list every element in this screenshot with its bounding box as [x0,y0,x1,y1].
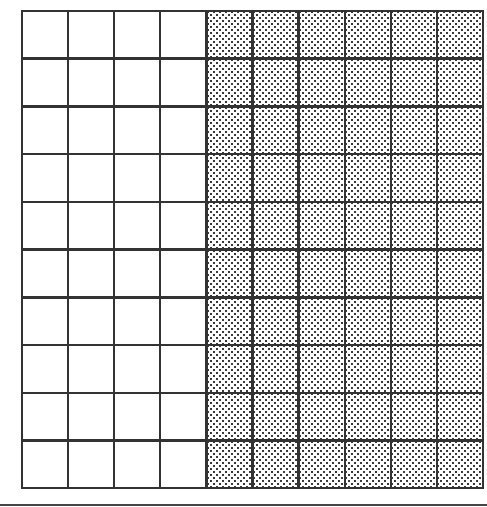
grid-cell-shaded [300,108,344,153]
grid-cell-shaded [392,299,436,344]
grid-cell-shaded [392,108,436,153]
grid-cell-empty [115,442,159,487]
grid-cell-shaded [254,442,298,487]
grid-cell-empty [115,108,159,153]
hundred-grid [21,10,484,489]
grid-cell-empty [69,251,113,296]
grid-cell-shaded [254,108,298,153]
grid-cell-shaded [300,251,344,296]
grid-cell-shaded [346,394,390,439]
grid-cell-shaded [254,251,298,296]
grid-cell-shaded [300,442,344,487]
grid-cell-shaded [300,12,344,57]
grid-cell-shaded [392,394,436,439]
grid-cell-shaded [208,12,252,57]
grid-cell-empty [69,346,113,391]
grid-cell-shaded [254,394,298,439]
grid-cell-empty [115,299,159,344]
grid-cell-shaded [392,60,436,105]
grid-cell-shaded [438,12,482,57]
grid-cell-shaded [346,203,390,248]
grid-cell-shaded [208,442,252,487]
grid-cell-empty [69,12,113,57]
grid-cell-empty [23,203,67,248]
grid-cell-shaded [392,12,436,57]
grid-cell-shaded [346,251,390,296]
grid-cell-shaded [438,394,482,439]
grid-cell-empty [115,12,159,57]
grid-cell-shaded [438,60,482,105]
grid-cell-empty [69,299,113,344]
grid-cell-shaded [346,12,390,57]
grid-cell-shaded [208,394,252,439]
grid-cell-empty [69,394,113,439]
grid-cell-shaded [300,60,344,105]
grid-cell-shaded [208,108,252,153]
grid-cell-shaded [300,346,344,391]
grid-cell-shaded [346,299,390,344]
grid-cell-shaded [254,155,298,200]
grid-cell-empty [115,203,159,248]
grid-cell-shaded [438,155,482,200]
grid-cell-shaded [438,299,482,344]
grid-cell-shaded [346,155,390,200]
grid-cell-empty [23,155,67,200]
grid-cell-empty [161,203,205,248]
grid-cell-empty [161,346,205,391]
grid-cell-shaded [392,346,436,391]
grid-cell-shaded [392,155,436,200]
grid-cell-empty [161,60,205,105]
grid-cell-shaded [300,203,344,248]
grid-cell-shaded [346,108,390,153]
grid-cell-empty [23,251,67,296]
grid-cell-empty [23,442,67,487]
bottom-rule [0,504,487,506]
grid-cell-empty [161,12,205,57]
grid-cell-empty [115,394,159,439]
grid-cell-shaded [254,60,298,105]
grid-cell-shaded [208,203,252,248]
grid-cell-empty [115,346,159,391]
grid-cell-shaded [254,203,298,248]
grid-cell-shaded [346,60,390,105]
grid-cell-shaded [208,346,252,391]
grid-cell-empty [161,251,205,296]
grid-cell-shaded [392,251,436,296]
grid-cell-empty [23,299,67,344]
grid-cell-empty [69,108,113,153]
grid-cell-shaded [254,346,298,391]
grid-cell-shaded [208,155,252,200]
grid-cell-empty [23,108,67,153]
grid-cell-empty [23,394,67,439]
grid-cell-empty [23,60,67,105]
grid-cell-shaded [438,251,482,296]
grid-cell-shaded [392,203,436,248]
grid-cell-empty [23,346,67,391]
grid-cell-empty [115,60,159,105]
grid-cell-shaded [438,346,482,391]
grid-cell-shaded [392,442,436,487]
grid-cell-empty [69,442,113,487]
grid-cell-empty [115,155,159,200]
grid-cell-shaded [208,60,252,105]
grid-cell-shaded [254,12,298,57]
grid-cell-empty [23,12,67,57]
grid-cell-empty [161,155,205,200]
grid-cell-shaded [438,108,482,153]
grid-cell-shaded [208,251,252,296]
grid-cell-shaded [438,203,482,248]
grid-cell-shaded [346,442,390,487]
grid-cell-shaded [438,442,482,487]
grid-cell-empty [69,155,113,200]
grid-cell-shaded [254,299,298,344]
grid-cell-empty [161,299,205,344]
grid-cell-empty [115,251,159,296]
grid-cell-empty [161,394,205,439]
grid-cell-shaded [208,299,252,344]
grid-cell-shaded [300,394,344,439]
grid-cell-empty [161,108,205,153]
grid-cell-empty [69,60,113,105]
grid-cell-shaded [346,346,390,391]
grid-cell-shaded [300,299,344,344]
grid-cell-empty [69,203,113,248]
